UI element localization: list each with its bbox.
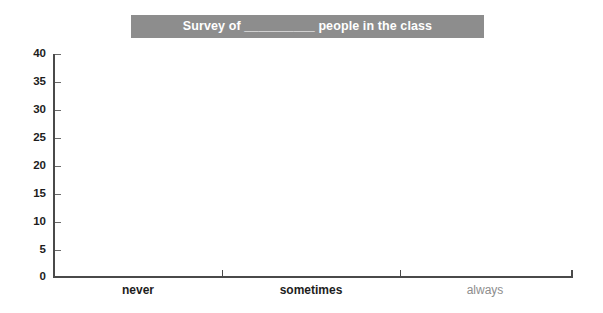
y-axis-tick	[55, 138, 61, 139]
y-axis-tick	[55, 82, 61, 83]
y-axis-tick	[55, 194, 61, 195]
y-axis-label: 5	[16, 244, 46, 256]
x-axis-end-tick	[571, 270, 573, 278]
y-axis-label: 25	[16, 132, 46, 144]
y-axis-tick	[55, 110, 61, 111]
y-axis-label: 10	[16, 216, 46, 228]
y-axis-tick	[55, 166, 61, 167]
y-axis-label: 20	[16, 160, 46, 172]
y-axis-label: 35	[16, 76, 46, 88]
survey-chart-worksheet: Survey of __________ people in the class…	[0, 0, 603, 313]
y-axis-label: 0	[16, 271, 46, 283]
x-axis-label-sometimes: sometimes	[280, 284, 343, 296]
y-axis-label: 15	[16, 188, 46, 200]
y-axis-tick	[55, 222, 61, 223]
chart-area: 40 35 30 25 20 15 10 5 0 never s	[0, 0, 603, 313]
y-axis-tick	[55, 250, 61, 251]
x-axis-label-always: always	[467, 284, 504, 296]
y-axis-label: 30	[16, 104, 46, 116]
y-axis-tick	[55, 54, 61, 55]
y-axis-label: 40	[16, 48, 46, 60]
x-axis-line	[53, 276, 573, 278]
x-axis-tick	[400, 270, 401, 277]
plot-region	[54, 54, 573, 277]
x-axis-label-never: never	[122, 284, 154, 296]
x-axis-tick	[222, 270, 223, 277]
